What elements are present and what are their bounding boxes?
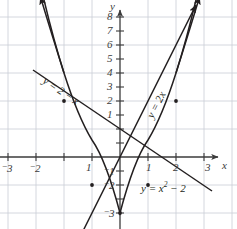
y-tick-1: 1: [107, 109, 113, 120]
y-tick-neg-1: −1: [104, 165, 115, 177]
x-tick-neg-3: −3: [2, 162, 13, 174]
label-parabola-prefix: y = x: [141, 182, 164, 194]
x-tick-neg-3-value: 3: [7, 162, 13, 174]
x-tick-1: 1: [146, 162, 152, 173]
y-tick-neg-2-value: 2: [109, 179, 115, 191]
y-tick-4: 4: [107, 67, 113, 78]
y-tick-neg-3: −3: [104, 207, 115, 219]
y-tick-neg-2: −2: [104, 179, 115, 191]
label-parabola: y = x2 − 2: [141, 183, 186, 194]
x-tick-2: 2: [173, 162, 179, 173]
x-axis-label: x: [222, 160, 227, 171]
y-tick-7: 7: [107, 25, 113, 36]
x-tick-neg-2-value: 2: [35, 162, 41, 174]
y-tick-neg-1-value: 1: [109, 165, 115, 177]
y-tick-neg-3-value: 3: [109, 207, 115, 219]
x-tick-neg-2: −2: [30, 162, 41, 174]
x-tick-3: 3: [205, 162, 211, 173]
label-parabola-suffix: − 2: [167, 182, 185, 194]
y-tick-5: 5: [107, 53, 113, 64]
y-tick-6: 6: [107, 39, 113, 50]
graph-canvas: [0, 0, 237, 229]
parabola-left-arm: [41, 0, 65, 73]
y-tick-8: 8: [107, 11, 113, 22]
y-tick-2: 2: [107, 95, 113, 106]
coordinate-graph-figure: y x 8 7 6 5 4 3 2 1 −1 −2 −3 −3 −2 1 1 2…: [0, 0, 237, 229]
line-ascending: [77, 5, 197, 229]
x-tick-neg-1: 1: [86, 162, 92, 173]
y-tick-3: 3: [107, 81, 113, 92]
